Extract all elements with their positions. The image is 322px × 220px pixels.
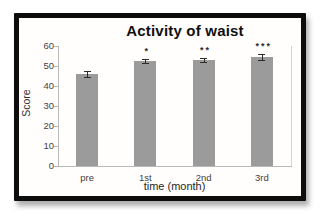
significance-marker: * xyxy=(125,46,169,56)
figure-frame: Activity of waist Score 0102030405060pre… xyxy=(14,13,306,201)
y-tick-label: 60 xyxy=(28,41,54,51)
y-tick-mark xyxy=(54,106,58,107)
bar xyxy=(134,61,156,166)
plot-right-border xyxy=(291,46,292,166)
error-bar-bottom-cap xyxy=(258,60,265,61)
y-tick-mark xyxy=(54,66,58,67)
y-tick-label: 10 xyxy=(28,141,54,151)
y-tick-mark xyxy=(54,46,58,47)
x-axis-title: time (month) xyxy=(58,180,291,194)
plot-area: 0102030405060pre*1st**2nd***3rd xyxy=(19,18,301,196)
bar xyxy=(193,60,215,166)
error-bar-top-cap xyxy=(200,58,207,59)
y-tick-label: 40 xyxy=(28,81,54,91)
y-tick-mark xyxy=(54,86,58,87)
error-bar-top-cap xyxy=(258,54,265,55)
error-bar-bottom-cap xyxy=(200,62,207,63)
y-tick-mark xyxy=(54,146,58,147)
significance-marker: ** xyxy=(184,45,228,55)
y-tick-label: 0 xyxy=(28,161,54,171)
error-bar-bottom-cap xyxy=(142,63,149,64)
y-tick-label: 50 xyxy=(28,61,54,71)
significance-marker: *** xyxy=(242,41,286,51)
bar-chart: Activity of waist Score 0102030405060pre… xyxy=(19,18,301,196)
y-axis-line xyxy=(58,46,59,166)
y-tick-mark xyxy=(54,166,58,167)
x-axis-line xyxy=(58,166,292,167)
y-tick-label: 30 xyxy=(28,101,54,111)
bar xyxy=(251,57,273,166)
error-bar-bottom-cap xyxy=(84,77,91,78)
y-tick-mark xyxy=(54,126,58,127)
bar xyxy=(76,74,98,166)
error-bar-top-cap xyxy=(84,71,91,72)
y-tick-label: 20 xyxy=(28,121,54,131)
error-bar-top-cap xyxy=(142,59,149,60)
